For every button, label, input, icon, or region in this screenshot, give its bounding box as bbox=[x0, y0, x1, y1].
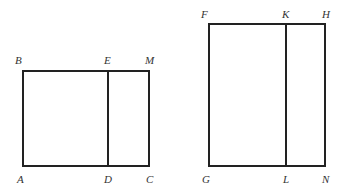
point-label-l: L bbox=[282, 173, 289, 185]
point-label-m: M bbox=[144, 54, 155, 66]
point-label-e: E bbox=[103, 54, 111, 66]
point-label-g: G bbox=[202, 173, 210, 185]
point-label-n: N bbox=[321, 173, 330, 185]
point-label-d: D bbox=[103, 173, 112, 185]
point-label-h: H bbox=[321, 8, 331, 20]
rectangle-abcm-outline bbox=[23, 71, 149, 166]
point-label-f: F bbox=[200, 8, 208, 20]
point-label-c: C bbox=[146, 173, 154, 185]
point-label-a: A bbox=[16, 173, 24, 185]
rectangle-abcm: B E M A D C bbox=[15, 54, 155, 185]
point-label-k: K bbox=[281, 8, 290, 20]
point-label-b: B bbox=[15, 54, 22, 66]
rectangle-fhng-outline bbox=[209, 24, 325, 166]
rectangle-fhng: F K H G L N bbox=[200, 8, 331, 185]
geometry-diagram: B E M A D C F K H G L N bbox=[0, 0, 352, 193]
